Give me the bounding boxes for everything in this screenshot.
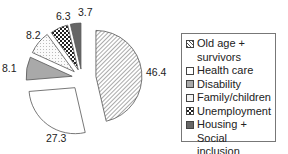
legend-item-family-children: Family/children bbox=[186, 91, 271, 105]
dotted-swatch-icon bbox=[186, 94, 194, 102]
slice-housing-value-label: 3.7 bbox=[78, 6, 93, 18]
slice-old-age-value-label: 46.4 bbox=[146, 66, 166, 78]
legend-label: Unemployment bbox=[197, 105, 271, 119]
chart-legend: Old age +survivors Health care Disabilit… bbox=[181, 33, 276, 142]
dark-gray-swatch-icon bbox=[186, 121, 194, 129]
hatch-swatch-icon bbox=[186, 40, 194, 48]
legend-label: inclusion bbox=[197, 145, 240, 154]
legend-item-disability: Disability bbox=[186, 78, 271, 92]
legend-label: Old age + bbox=[197, 37, 245, 49]
legend-label: survivors bbox=[197, 51, 241, 63]
gray-swatch-icon bbox=[186, 80, 194, 88]
legend-label: Housing + Social bbox=[197, 118, 247, 144]
white-swatch-icon bbox=[186, 67, 194, 75]
legend-item-old-age: Old age +survivors bbox=[186, 37, 271, 64]
legend-item-unemployment: Unemployment bbox=[186, 105, 271, 119]
slice-unemployment-value-label: 6.3 bbox=[56, 10, 71, 22]
slice-health-care bbox=[29, 88, 85, 134]
legend-item-housing: Housing + Socialinclusion bbox=[186, 118, 271, 154]
legend-item-health-care: Health care bbox=[186, 64, 271, 78]
slice-family-children-value-label: 8.2 bbox=[26, 29, 41, 41]
legend-label: Health care bbox=[197, 64, 271, 78]
legend-label: Disability bbox=[197, 78, 271, 92]
slice-disability-value-label: 8.1 bbox=[2, 62, 17, 74]
legend-label: Family/children bbox=[197, 91, 271, 105]
checker-swatch-icon bbox=[186, 107, 194, 115]
slice-health-care-value-label: 27.3 bbox=[46, 132, 66, 144]
slice-old-age bbox=[96, 30, 142, 121]
